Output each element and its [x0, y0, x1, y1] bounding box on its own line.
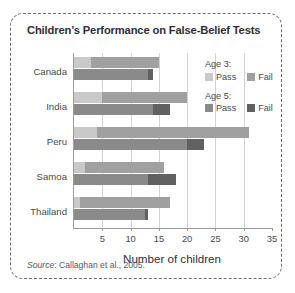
tick-5: [102, 228, 103, 231]
x-ticklabel: 35: [267, 233, 277, 244]
bar-group-samoa: Samoa: [74, 158, 272, 193]
segment-age5-fail: [145, 209, 148, 220]
segment-age3-fail: [102, 92, 187, 103]
bar-samoa-age5: [74, 174, 176, 185]
x-ticklabel: 15: [154, 233, 164, 244]
segment-age3-pass: [74, 162, 85, 173]
segment-age3-pass: [74, 92, 102, 103]
legend-swatch-age5-pass: [205, 104, 213, 112]
tick-35: [272, 228, 273, 231]
segment-age5-pass: [74, 69, 148, 80]
bar-india-age3: [74, 92, 187, 103]
segment-age5-pass: [74, 104, 153, 115]
segment-age3-fail: [91, 57, 159, 68]
legend-swatch-age3-pass: [205, 73, 213, 81]
bar-peru-age5: [74, 139, 204, 150]
legend-row-age3: Pass Fail: [205, 72, 273, 82]
segment-age5-pass: [74, 139, 187, 150]
legend-heading: Age 3:: [205, 59, 273, 69]
legend-block-age3: Age 3: Pass Fail: [205, 59, 273, 82]
bar-canada-age3: [74, 57, 159, 68]
segment-age3-fail: [85, 162, 164, 173]
category-label: Thailand: [30, 205, 67, 216]
chart-title: Children’s Performance on False-Belief T…: [27, 24, 260, 36]
legend-label-age3-pass: Pass: [216, 72, 236, 82]
category-label: Samoa: [37, 170, 67, 181]
bar-thailand-age5: [74, 209, 148, 220]
segment-age5-fail: [153, 104, 170, 115]
bar-india-age5: [74, 104, 170, 115]
tick-20: [187, 228, 188, 231]
bar-group-thailand: Thailand: [74, 193, 272, 228]
legend-label-age3-fail: Fail: [258, 72, 273, 82]
x-ticklabel: 5: [100, 233, 105, 244]
category-label: Peru: [47, 135, 67, 146]
x-ticklabel: 25: [210, 233, 220, 244]
segment-age5-pass: [74, 209, 145, 220]
plot-area: 5 10 15 20 25 30 35 Canada India: [73, 53, 272, 229]
legend-swatch-age5-fail: [247, 104, 255, 112]
bar-group-peru: Peru: [74, 123, 272, 158]
legend-heading: Age 5:: [205, 91, 273, 101]
legend-label-age5-pass: Pass: [216, 103, 236, 113]
segment-age3-fail: [97, 127, 250, 138]
figure-card: Children’s Performance on False-Belief T…: [10, 13, 282, 279]
chart-legend: Age 3: Pass Fail Age 5: Pass Fail: [205, 59, 273, 122]
legend-row-age5: Pass Fail: [205, 103, 273, 113]
segment-age5-fail: [148, 174, 176, 185]
segment-age3-fail: [80, 197, 171, 208]
tick-15: [159, 228, 160, 231]
segment-age3-pass: [74, 57, 91, 68]
legend-swatch-age3-fail: [247, 73, 255, 81]
segment-age5-fail: [187, 139, 204, 150]
tick-25: [215, 228, 216, 231]
segment-age5-pass: [74, 174, 148, 185]
tick-30: [244, 228, 245, 231]
x-ticklabel: 10: [125, 233, 135, 244]
segment-age3-pass: [74, 127, 97, 138]
legend-block-age5: Age 5: Pass Fail: [205, 91, 273, 114]
category-label: India: [46, 100, 67, 111]
x-ticklabel: 20: [182, 233, 192, 244]
category-label: Canada: [33, 65, 67, 76]
segment-age5-fail: [148, 69, 154, 80]
source-note: Source: Callaghan et al., 2005.: [27, 260, 145, 270]
tick-10: [131, 228, 132, 231]
bar-thailand-age3: [74, 197, 170, 208]
bar-samoa-age3: [74, 162, 164, 173]
legend-label-age5-fail: Fail: [258, 103, 273, 113]
x-ticklabel: 30: [238, 233, 248, 244]
source-word: Source: [27, 260, 54, 270]
bar-canada-age5: [74, 69, 153, 80]
source-text: : Callaghan et al., 2005.: [54, 260, 145, 270]
bar-peru-age3: [74, 127, 249, 138]
